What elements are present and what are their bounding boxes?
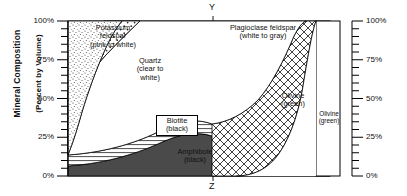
mineral-composition-chart: Mineral Composition (Percent by Volume) … (0, 0, 407, 196)
label-biotite: Biotite (black) (156, 115, 198, 136)
y-axis-title: Mineral Composition (Percent by Volume) (1, 14, 44, 134)
right-tick-75: 75% (366, 55, 402, 64)
left-axis (57, 21, 68, 176)
right-axis (352, 21, 363, 176)
left-tick-100: 100% (22, 16, 54, 25)
marker-z: Z (209, 181, 215, 191)
left-tick-0: 0% (22, 171, 54, 180)
right-tick-25: 25% (366, 132, 402, 141)
right-tick-0: 0% (366, 171, 402, 180)
right-tick-50: 50% (366, 94, 402, 103)
left-tick-25: 25% (22, 132, 54, 141)
label-potassium-feldspar: Potassium feldspar (pink to white) (76, 24, 150, 49)
left-tick-75: 75% (22, 55, 54, 64)
label-olivine-column: Olivine (green) (317, 110, 341, 125)
label-olivine: Olivine (green) (272, 92, 314, 109)
label-plagioclase-feldspar: Plagioclase feldspar (white to gray) (216, 24, 310, 41)
marker-y: Y (209, 2, 215, 12)
y-axis-title-line1: Mineral Composition (11, 30, 21, 118)
label-quartz: Quartz (clear to white) (124, 57, 176, 82)
chart-canvas (0, 0, 407, 196)
label-amphibole: Amphibole (black) (166, 148, 224, 165)
right-tick-100: 100% (366, 16, 402, 25)
left-tick-50: 50% (22, 94, 54, 103)
